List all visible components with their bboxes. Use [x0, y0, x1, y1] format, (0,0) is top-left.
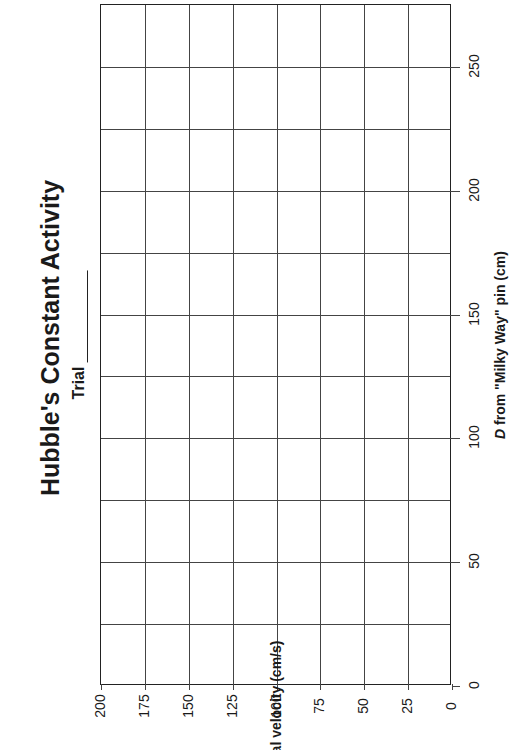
velocity-gridline [364, 5, 365, 684]
velocity-tick-mark [408, 684, 409, 690]
distance-gridline [101, 315, 460, 316]
trial-label: Trial [70, 367, 88, 400]
distance-gridline [101, 253, 450, 254]
velocity-tick-mark [364, 684, 365, 690]
velocity-gridline [189, 5, 190, 684]
distance-gridline [101, 129, 450, 130]
velocity-gridline [408, 5, 409, 684]
velocity-gridline [145, 5, 146, 684]
distance-gridline [101, 376, 450, 377]
velocity-gridline [277, 5, 278, 684]
velocity-tick-mark [101, 684, 102, 690]
distance-variable: D [492, 429, 508, 439]
distance-gridline [101, 67, 460, 68]
distance-gridline [101, 500, 450, 501]
trial-blank-field[interactable] [73, 271, 88, 363]
velocity-gridline [320, 5, 321, 684]
distance-tick-mark [452, 686, 460, 687]
plot-grid [100, 4, 451, 685]
distance-gridline [101, 624, 450, 625]
velocity-tick-mark [233, 684, 234, 690]
velocity-tick-mark [320, 684, 321, 690]
velocity-gridline [233, 5, 234, 684]
distance-gridline [101, 191, 460, 192]
velocity-tick-mark [189, 684, 190, 690]
distance-gridline [101, 438, 460, 439]
velocity-tick-mark [145, 684, 146, 690]
distance-label-rest: from "Milky Way" pin (cm) [492, 251, 508, 429]
velocity-tick-mark [452, 684, 453, 690]
distance-gridline [101, 562, 460, 563]
chart-title: Hubble's Constant Activity [36, 180, 65, 496]
